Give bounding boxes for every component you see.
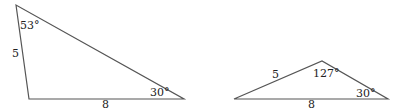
- two-triangles-diagram: 53° 5 8 30° 5 127° 8 30°: [0, 0, 406, 111]
- side-label-5: 5: [12, 47, 19, 60]
- triangle-left: 53° 5 8 30°: [12, 5, 184, 111]
- angle-label-127: 127°: [313, 67, 340, 80]
- angle-label-30: 30°: [150, 86, 170, 99]
- side-label-5: 5: [272, 68, 279, 81]
- angle-label-30: 30°: [356, 87, 376, 100]
- triangle-left-outline: [16, 5, 184, 99]
- side-label-8: 8: [102, 98, 109, 111]
- angle-label-53: 53°: [20, 19, 40, 32]
- side-label-8: 8: [308, 98, 315, 111]
- triangle-right: 5 127° 8 30°: [234, 61, 388, 111]
